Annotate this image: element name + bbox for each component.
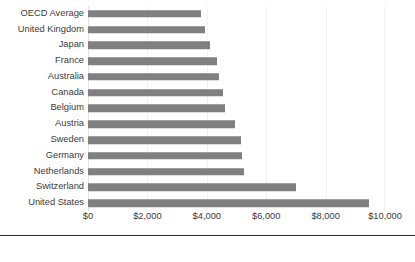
bar-row: Austria [0, 116, 415, 132]
category-label: Canada [51, 88, 84, 97]
bar-row: United Kingdom [0, 22, 415, 38]
x-tick-label: $6,000 [252, 212, 280, 221]
category-label: United States [28, 198, 84, 207]
category-label: Australia [48, 72, 84, 81]
bar [88, 42, 210, 50]
category-label: France [55, 57, 84, 66]
bar-row: Australia [0, 69, 415, 85]
bar-rows: OECD AverageUnited KingdomJapanFranceAus… [0, 6, 415, 211]
bar-row: Japan [0, 38, 415, 54]
bar [88, 199, 369, 207]
bar [88, 105, 225, 113]
category-label: Austria [55, 120, 84, 129]
bar [88, 26, 205, 34]
bar-row: Belgium [0, 101, 415, 117]
bar-row: OECD Average [0, 6, 415, 22]
bar-row: United States [0, 195, 415, 211]
bar-row: Netherlands [0, 164, 415, 180]
category-label: Switzerland [36, 183, 84, 192]
bar [88, 73, 219, 81]
bar [88, 136, 241, 144]
bottom-divider [0, 235, 415, 236]
x-tick-label: $4,000 [193, 212, 221, 221]
bar [88, 152, 242, 160]
x-tick-label: $0 [83, 212, 93, 221]
bar [88, 57, 217, 65]
category-label: OECD Average [21, 9, 84, 18]
x-tick-label: $8,000 [311, 212, 339, 221]
category-label: Sweden [50, 135, 84, 144]
bar [88, 10, 201, 18]
x-tick-label: $2,000 [133, 212, 161, 221]
bar [88, 184, 296, 192]
x-axis-tick-labels: $0$2,000$4,000$6,000$8,000$10,000 [0, 212, 415, 232]
bar [88, 89, 223, 97]
category-label: Germany [46, 151, 84, 160]
bar-row: Germany [0, 148, 415, 164]
bar-row: Canada [0, 85, 415, 101]
bar [88, 168, 244, 176]
bar [88, 120, 235, 128]
category-label: Japan [59, 41, 84, 50]
category-label: Belgium [50, 104, 84, 113]
category-label: Netherlands [34, 167, 84, 176]
bar-row: Sweden [0, 132, 415, 148]
horizontal-bar-chart: OECD AverageUnited KingdomJapanFranceAus… [0, 0, 415, 262]
bar-row: Switzerland [0, 179, 415, 195]
category-label: United Kingdom [18, 25, 84, 34]
bar-row: France [0, 53, 415, 69]
x-tick-label: $10,000 [368, 212, 402, 221]
